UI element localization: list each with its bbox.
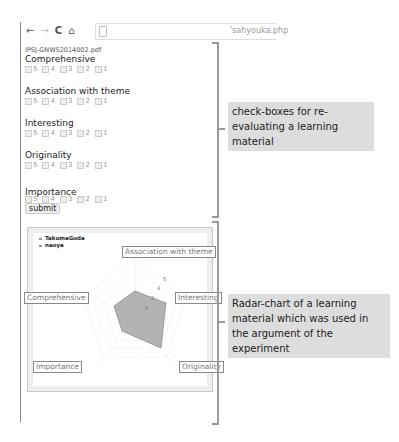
checkbox-5[interactable]: 5 <box>25 129 37 137</box>
question-title: Comprehensive <box>25 54 130 64</box>
checkbox-4[interactable]: 4 <box>42 195 54 203</box>
forward-icon[interactable]: → <box>40 26 48 36</box>
question-originality: Originality 5 4 3 2 1 <box>25 150 130 169</box>
checkbox-2[interactable]: 2 <box>77 97 89 105</box>
checkbox-4[interactable]: 4 <box>42 97 54 105</box>
question-title: Originality <box>25 150 130 160</box>
checkbox-5[interactable]: 5 <box>25 97 37 105</box>
submit-button[interactable]: submit <box>25 203 60 214</box>
legend-item[interactable]: naoya <box>39 242 85 249</box>
legend-item[interactable]: TakumaGoda <box>39 235 85 242</box>
back-icon[interactable]: ← <box>26 26 34 36</box>
checkbox-2[interactable]: 2 <box>77 129 89 137</box>
chart-legend: TakumaGoda naoya <box>39 235 85 249</box>
reload-icon[interactable]: C <box>55 26 62 36</box>
question-title: Association with theme <box>25 86 130 96</box>
checkbox-4[interactable]: 4 <box>42 129 54 137</box>
tick-label: 3 <box>151 295 154 301</box>
axis-label-comprehensive: Comprehensive <box>24 292 89 304</box>
question-association: Association with theme 5 4 3 2 1 <box>25 86 130 105</box>
question-importance: Importance 5 4 3 2 1 submit <box>25 187 130 214</box>
checkbox-3[interactable]: 3 <box>60 97 72 105</box>
checkbox-2[interactable]: 2 <box>77 161 89 169</box>
url-text: 'sahyouka.php <box>230 26 288 35</box>
checkbox-3[interactable]: 3 <box>60 65 72 73</box>
bracket-checkboxes <box>212 42 219 218</box>
checkbox-5[interactable]: 5 <box>25 161 37 169</box>
checkbox-annotation: check-boxes for re-evaluating a learning… <box>228 102 374 151</box>
checkbox-2[interactable]: 2 <box>77 195 89 203</box>
evaluation-form: IPSJ-GNWS2014002.pdf Comprehensive 5 4 3… <box>25 46 130 214</box>
checkbox-1[interactable]: 1 <box>95 195 107 203</box>
tick-label: 2 <box>145 305 148 311</box>
checkbox-3[interactable]: 3 <box>60 195 72 203</box>
checkbox-1[interactable]: 1 <box>95 97 107 105</box>
axis-label-association: Association with theme <box>122 246 216 258</box>
checkbox-1[interactable]: 1 <box>95 65 107 73</box>
bracket-radar <box>212 221 219 425</box>
home-icon[interactable]: ⌂ <box>68 26 74 36</box>
checkbox-1[interactable]: 1 <box>95 161 107 169</box>
question-title: Interesting <box>25 118 130 128</box>
series-area <box>114 291 166 348</box>
checkbox-5[interactable]: 5 <box>25 195 37 203</box>
axis-label-importance: Importance <box>33 361 82 373</box>
checkbox-1[interactable]: 1 <box>95 129 107 137</box>
checkbox-3[interactable]: 3 <box>60 161 72 169</box>
checkbox-3[interactable]: 3 <box>60 129 72 137</box>
url-bar[interactable]: 'sahyouka.php <box>95 23 276 40</box>
file-name: IPSJ-GNWS2014002.pdf <box>25 46 130 54</box>
page-icon <box>99 26 107 37</box>
question-interesting: Interesting 5 4 3 2 1 <box>25 118 130 137</box>
checkbox-4[interactable]: 4 <box>42 65 54 73</box>
radar-chart-panel: TakumaGoda naoya 5 4 3 2 Association wit… <box>27 227 213 392</box>
tick-label: 4 <box>157 285 160 291</box>
radar-chart: TakumaGoda naoya 5 4 3 2 Association wit… <box>33 233 207 386</box>
question-comprehensive: Comprehensive 5 4 3 2 1 <box>25 54 130 73</box>
checkbox-4[interactable]: 4 <box>42 161 54 169</box>
tick-label: 5 <box>163 276 166 282</box>
checkbox-2[interactable]: 2 <box>77 65 89 73</box>
radar-annotation: Radar-chart of a learning material which… <box>228 294 390 358</box>
checkbox-5[interactable]: 5 <box>25 65 37 73</box>
